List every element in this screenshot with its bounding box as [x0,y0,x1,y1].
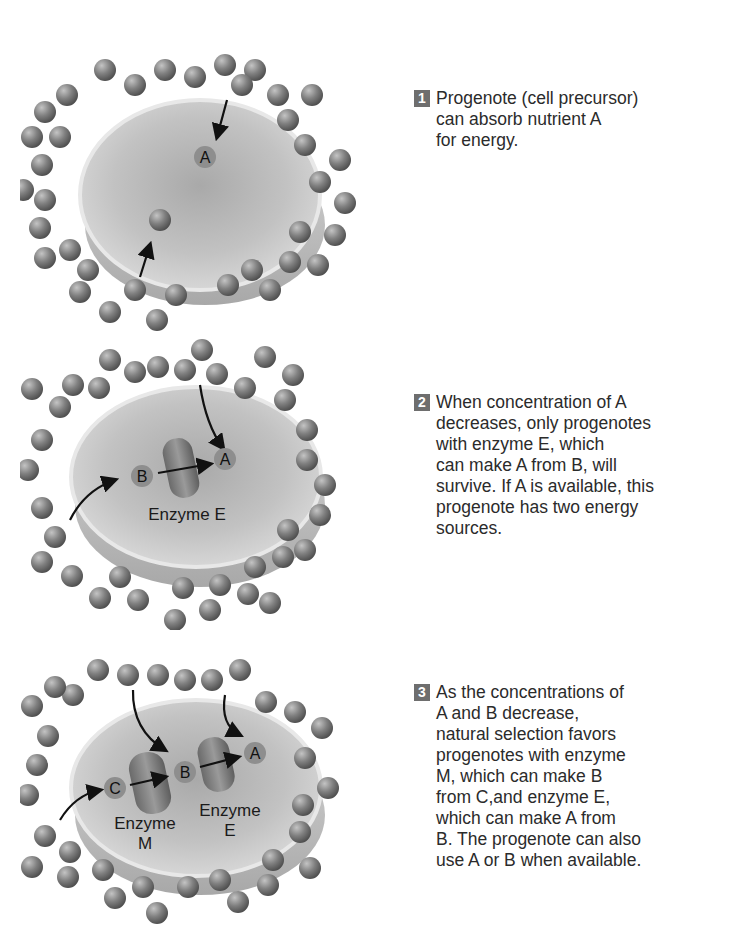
enzyme-m-label: M [138,834,152,853]
svg-text:C: C [109,780,121,797]
svg-text:B: B [180,764,191,781]
step-number-badge: 3 [414,684,430,701]
molecule-a: A [214,448,236,470]
step-3-caption: 3 As the concentrations of A and B decre… [414,682,641,871]
molecule-b: B [131,465,153,487]
step-3-panel: C B A Enzyme M Enzyme E 3 As the concent… [0,640,729,933]
svg-text:A: A [250,745,261,762]
step-2-panel: B A Enzyme E 2 When concentration of A d… [0,330,729,630]
step-number-badge: 1 [414,90,430,107]
step-number-badge: 2 [414,394,430,411]
enzyme-e-label: E [224,821,235,840]
molecule-a: A [194,146,216,168]
molecule-a: A [244,742,266,764]
svg-text:A: A [220,451,231,468]
step-description: When concentration of A decreases, only … [436,392,654,539]
enzyme-e-label: Enzyme [199,801,260,820]
step-description: As the concentrations of A and B decreas… [436,682,641,871]
progenote-1-illustration: A [20,40,380,340]
enzyme-e-label: Enzyme E [148,505,225,524]
step-2-caption: 2 When concentration of A decreases, onl… [414,392,654,539]
svg-text:A: A [200,149,211,166]
step-description: Progenote (cell precursor) can absorb nu… [436,88,638,151]
molecule-c: C [104,777,126,799]
step-1-caption: 1 Progenote (cell precursor) can absorb … [414,88,638,151]
progenote-3-illustration: C B A Enzyme M Enzyme E [20,640,380,933]
step-1-panel: A 1 Progenote (cell precursor) can absor… [0,40,729,340]
svg-text:B: B [137,468,148,485]
molecule-b: B [174,761,196,783]
progenote-2-illustration: B A Enzyme E [20,330,380,630]
enzyme-m-label: Enzyme [114,814,175,833]
